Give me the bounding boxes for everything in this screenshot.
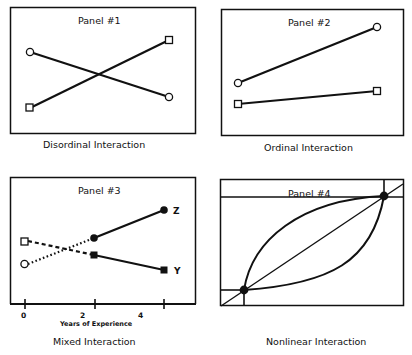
open-circle-marker — [234, 79, 241, 86]
y-series-solid-segment — [94, 255, 164, 270]
x-tick-label-0: 0 — [21, 311, 26, 320]
y-series-dashed-segment — [28, 241, 94, 255]
open-square-marker — [21, 238, 28, 245]
open-square-marker — [374, 88, 381, 95]
panel-2-square-line — [238, 91, 377, 104]
series-label-z: Z — [173, 206, 180, 216]
panel-1-caption: Disordinal Interaction — [43, 139, 145, 150]
filled-square-marker — [91, 252, 98, 259]
diagonal-line — [221, 184, 403, 306]
open-square-marker — [26, 104, 33, 111]
panel-3-caption: Mixed Interaction — [53, 336, 136, 347]
open-circle-marker — [373, 23, 380, 30]
panel-3: 0 2 4 Years of Experience Panel #3 Z Y M… — [10, 178, 196, 348]
x-axis-label: Years of Experience — [59, 320, 133, 328]
panel-4: Panel #4 Nonlinear Interaction — [221, 180, 404, 348]
panel-3-title: Panel #3 — [78, 185, 121, 196]
series-label-y: Y — [173, 266, 181, 276]
open-square-marker — [166, 37, 173, 44]
panel-1-frame — [11, 8, 196, 134]
panel-2-circle-line — [238, 27, 377, 83]
z-series-solid-segment — [94, 210, 164, 238]
interaction-figure: Panel #1 Disordinal Interaction Panel #2… — [0, 0, 412, 355]
panel-1: Panel #1 Disordinal Interaction — [11, 8, 196, 151]
z-series-dotted-segment — [28, 238, 94, 264]
panel-2-title: Panel #2 — [288, 17, 331, 28]
x-tick-label-4: 4 — [138, 311, 143, 320]
x-tick-label-2: 2 — [80, 311, 85, 320]
panel-2-caption: Ordinal Interaction — [264, 142, 353, 153]
panel-1-title: Panel #1 — [78, 15, 121, 26]
filled-square-marker — [161, 267, 168, 274]
open-circle-marker — [26, 48, 33, 55]
panel-4-caption: Nonlinear Interaction — [266, 336, 366, 347]
panel-1-square-line — [30, 40, 169, 108]
panel-3-frame — [11, 178, 196, 305]
panel-2: Panel #2 Ordinal Interaction — [222, 10, 404, 154]
open-circle-marker — [21, 260, 28, 267]
filled-circle-marker — [90, 234, 98, 242]
lower-intersection-point — [240, 286, 249, 295]
filled-circle-marker — [160, 206, 168, 214]
upper-intersection-point — [380, 192, 389, 201]
open-square-marker — [235, 101, 242, 108]
open-circle-marker — [165, 93, 172, 100]
